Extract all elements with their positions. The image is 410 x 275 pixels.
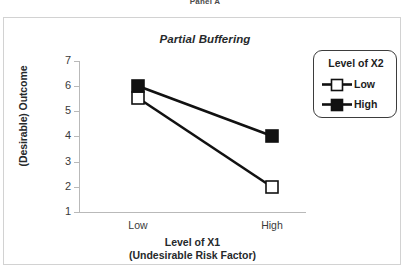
chart-title: Partial Buffering: [95, 33, 315, 45]
x-axis-title-line1: Level of X1: [165, 236, 220, 248]
legend-item-low[interactable]: Low: [322, 77, 394, 92]
y-tick-mark-2: [74, 187, 79, 188]
legend-label-high: High: [354, 98, 377, 111]
y-tick-label-6: 6: [56, 80, 71, 91]
y-tick-label-5: 5: [56, 105, 71, 116]
x-axis-title: Level of X1 (Undesirable Risk Factor): [75, 236, 310, 262]
y-tick-label-1: 1: [56, 206, 71, 217]
x-tick-label-high: High: [242, 219, 302, 231]
y-tick-mark-4: [74, 136, 79, 137]
legend-swatch-high-filled-square-icon: [322, 97, 352, 112]
legend-title: Level of X2: [314, 57, 398, 69]
y-tick-mark-5: [74, 111, 79, 112]
legend-swatch-low-open-square-icon: [322, 77, 352, 92]
y-tick-mark-7: [74, 61, 79, 62]
x-tick-label-low: Low: [108, 219, 168, 231]
y-tick-mark-1: [74, 212, 79, 213]
panel-label: Panel A: [0, 0, 410, 6]
y-tick-label-3: 3: [56, 156, 71, 167]
y-axis-title: (Desirable) Outcome: [17, 56, 29, 176]
y-axis-line: [79, 61, 80, 213]
legend: Level of X2 Low High: [313, 50, 397, 118]
legend-label-low: Low: [354, 78, 375, 91]
x-axis-line: [79, 212, 306, 213]
y-tick-label-4: 4: [56, 130, 71, 141]
y-tick-mark-3: [74, 162, 79, 163]
legend-item-high[interactable]: High: [322, 97, 394, 112]
x-axis-title-line2: (Undesirable Risk Factor): [75, 249, 310, 262]
y-tick-label-7: 7: [56, 55, 71, 66]
y-tick-mark-6: [74, 86, 79, 87]
y-tick-label-2: 2: [56, 181, 71, 192]
